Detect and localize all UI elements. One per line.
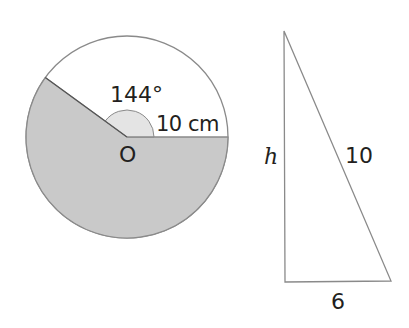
triangle-figure: h 10 6 (264, 31, 391, 314)
right-triangle (284, 31, 391, 282)
height-label: h (264, 144, 278, 169)
diagram-canvas: 144° 10 cm O h 10 6 (0, 0, 409, 328)
radius-label: 10 cm (156, 112, 219, 136)
angle-label: 144° (110, 82, 163, 107)
base-label: 6 (331, 289, 345, 314)
circle-figure: 144° 10 cm O (26, 36, 228, 238)
hypotenuse-label: 10 (345, 143, 373, 168)
center-label: O (119, 142, 136, 167)
